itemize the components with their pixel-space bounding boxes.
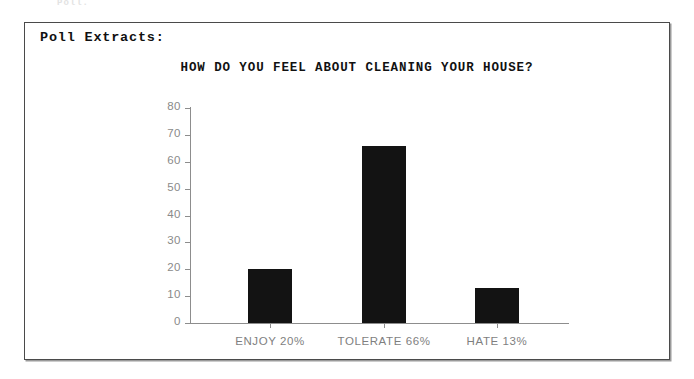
y-tick-mark: [185, 216, 190, 217]
x-tick-mark: [497, 323, 498, 328]
x-tick-mark: [270, 323, 271, 328]
y-tick-mark: [185, 108, 190, 109]
y-tick-label: 60: [167, 154, 181, 166]
y-tick-label: 0: [174, 315, 181, 327]
x-axis-label: TOLERATE 66%: [337, 335, 430, 347]
x-axis-label: ENJOY 20%: [235, 335, 305, 347]
y-tick-label: 50: [167, 181, 181, 193]
plot-area: 80706050403020100 ENJOY 20%TOLERATE 66%H…: [190, 108, 569, 323]
y-tick-mark: [185, 323, 190, 324]
y-tick-mark: [185, 296, 190, 297]
bar: [475, 288, 519, 323]
bar: [362, 146, 406, 323]
y-tick-mark: [185, 162, 190, 163]
y-tick-mark: [185, 189, 190, 190]
x-tick-mark: [384, 323, 385, 328]
x-axis-line: [190, 323, 569, 324]
y-axis-line: [190, 107, 191, 323]
y-tick-label: 70: [167, 127, 181, 139]
y-tick-mark: [185, 242, 190, 243]
bar-chart: 80706050403020100 ENJOY 20%TOLERATE 66%H…: [25, 23, 671, 361]
y-tick-label: 10: [167, 288, 181, 300]
y-tick-label: 30: [167, 234, 181, 246]
y-tick-label: 40: [167, 208, 181, 220]
y-tick-label: 20: [167, 261, 181, 273]
bar: [248, 269, 292, 323]
y-tick-label: 80: [167, 100, 181, 112]
scan-artifact-text: Poll.: [57, 0, 89, 8]
y-tick-mark: [185, 135, 190, 136]
x-axis-label: HATE 13%: [467, 335, 528, 347]
y-tick-mark: [185, 269, 190, 270]
poll-extracts-panel: Poll Extracts: HOW DO YOU FEEL ABOUT CLE…: [24, 22, 670, 360]
